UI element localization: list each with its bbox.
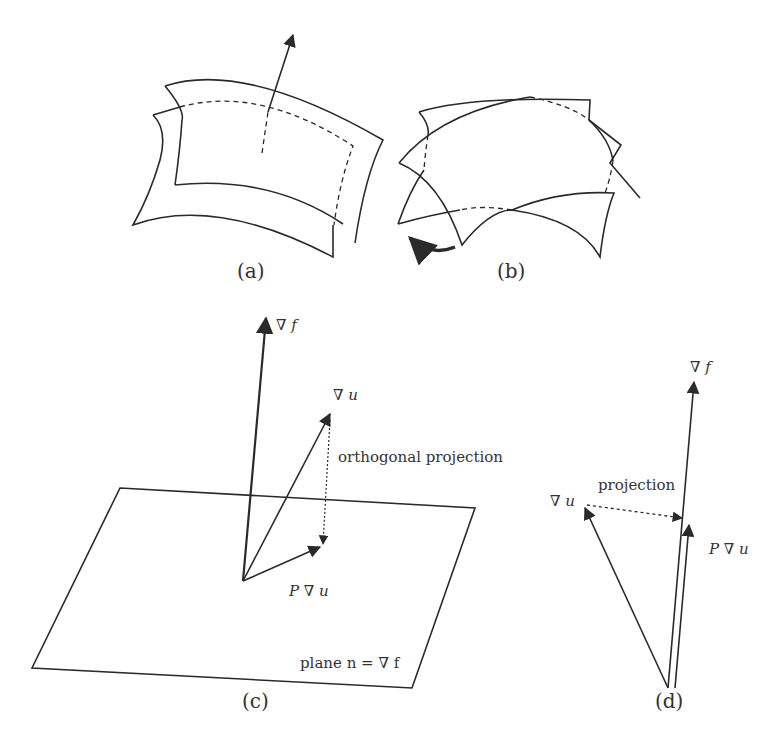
label-p-grad-u: P ∇ u — [708, 540, 749, 558]
label-grad-f: ∇ f — [276, 316, 299, 334]
grad-f-arrow — [243, 318, 266, 581]
panel-a: (a) — [133, 35, 383, 283]
label-orthogonal-projection: orthogonal projection — [338, 448, 503, 466]
normal-arrow — [268, 35, 293, 112]
caption-c: (c) — [242, 689, 269, 713]
grad-u-arrow — [585, 508, 668, 688]
front-surface — [133, 107, 333, 257]
label-grad-f: ∇ f — [690, 358, 713, 376]
plane — [32, 488, 475, 688]
caption-a: (a) — [237, 259, 265, 283]
orthogonal-projection-line — [323, 420, 330, 544]
panel-c: ∇ f ∇ u orthogonal projection P ∇ u plan… — [32, 316, 503, 713]
figure-canvas: (a) (b) ∇ f ∇ u orthogonal projection P … — [0, 0, 770, 744]
label-projection: projection — [598, 476, 676, 494]
label-grad-u: ∇ u — [550, 492, 575, 510]
p-grad-u-arrow — [675, 525, 689, 688]
p-grad-u-arrow — [243, 547, 320, 581]
label-plane: plane n = ∇ f — [300, 654, 401, 672]
panel-d: ∇ f ∇ u projection P ∇ u (d) — [550, 358, 749, 713]
label-grad-u: ∇ u — [333, 386, 358, 404]
grad-f-arrow — [668, 382, 694, 688]
caption-b: (b) — [497, 259, 525, 283]
label-p-grad-u: P ∇ u — [288, 582, 329, 600]
back-surface — [165, 80, 383, 243]
rotation-arrow — [410, 238, 455, 250]
caption-d: (d) — [655, 689, 683, 713]
panel-b: (b) — [398, 97, 640, 283]
projection-line — [587, 505, 682, 518]
